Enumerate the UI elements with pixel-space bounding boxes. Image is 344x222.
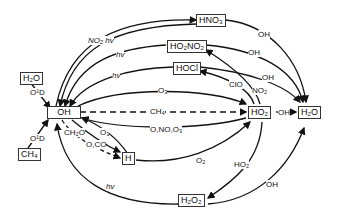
label-hv-bottom: hv <box>106 182 114 191</box>
label-hv-hocl: hv <box>112 71 120 80</box>
label-no2-hv: NO₂ hv <box>88 36 114 45</box>
species-ho2: HO₂ <box>248 106 271 119</box>
species-ho2no2: HO₂NO₂ <box>167 40 207 53</box>
label-o2: O₂ <box>196 156 205 165</box>
label-o-co: O,CO <box>86 140 106 149</box>
label-oh-hno3: OH <box>258 30 270 39</box>
label-ho2-h2o2: HO₂ <box>234 160 249 169</box>
species-oh: OH <box>47 106 81 119</box>
label-oh-h2o2: OH <box>266 180 278 189</box>
label-o3-top: O₃ <box>158 86 167 95</box>
label-o-no-o3: O,NO,O₃ <box>150 125 182 134</box>
label-oh-ho2: OH <box>278 108 290 117</box>
label-clo: ClO <box>229 80 243 89</box>
label-ch4-dashed: CH₄ <box>150 107 165 116</box>
label-o1d-top: O¹D <box>30 88 45 97</box>
species-h2o-left: H₂O <box>20 72 43 85</box>
label-o3-h: O₃ <box>100 128 109 137</box>
species-h: H <box>122 152 135 165</box>
species-hocl: HOCl <box>173 62 201 75</box>
label-no2: NO₂ <box>252 86 267 95</box>
species-h2o2: H₂O₂ <box>178 194 205 207</box>
label-hv-ho2no2: hv <box>116 50 124 59</box>
label-oh-ho2no2: OH <box>248 48 260 57</box>
species-h2o-right: H₂O <box>298 106 321 119</box>
label-o1d-bottom: O¹D <box>30 134 45 143</box>
label-oh-hocl: OH <box>262 73 274 82</box>
label-ch2o: CH₂O <box>64 128 85 137</box>
species-ch4: CH₄ <box>18 148 41 161</box>
species-hno3: HNO₃ <box>196 14 226 27</box>
